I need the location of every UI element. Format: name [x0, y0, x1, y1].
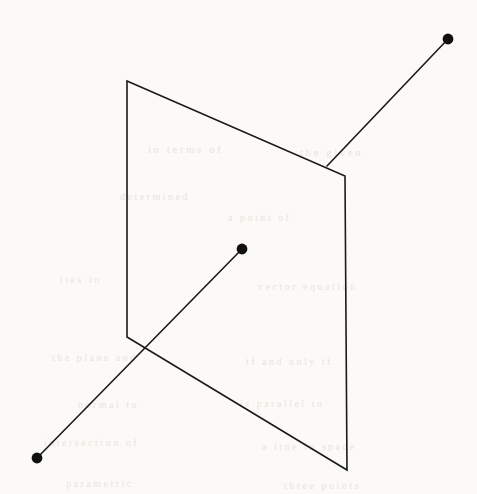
- lower-left-endpoint-dot: [32, 453, 43, 464]
- plane-group: [127, 81, 347, 470]
- geometry-figure-svg: [0, 0, 477, 494]
- upper-ray-segment: [327, 39, 448, 166]
- center-endpoint-dot: [237, 244, 248, 255]
- plane-quadrilateral: [127, 81, 347, 470]
- upper-right-endpoint-dot: [443, 34, 454, 45]
- figure-canvas: in terms ofthe givendetermineda point of…: [0, 0, 477, 494]
- lower-ray-segment: [37, 249, 242, 458]
